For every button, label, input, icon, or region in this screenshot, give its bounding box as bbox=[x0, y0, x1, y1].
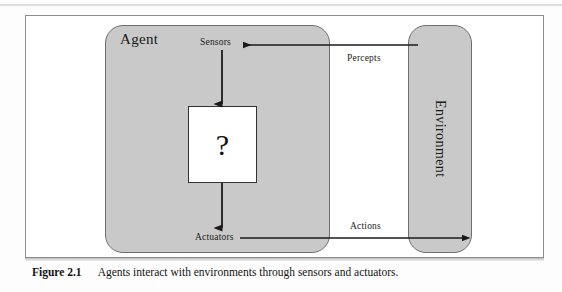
question-mark-label: ? bbox=[188, 106, 257, 183]
figure-caption-text: Agents interact with environments throug… bbox=[98, 266, 399, 278]
figure-caption: Figure 2.1Agents interact with environme… bbox=[32, 266, 542, 278]
caption-separator-rule bbox=[25, 258, 544, 261]
percepts-edge-label: Percepts bbox=[347, 53, 381, 63]
environment-label: Environment bbox=[408, 25, 472, 253]
actions-edge-label: Actions bbox=[350, 221, 381, 231]
scanned-page-background: Agent Environment ? Sensors Actuators Pe… bbox=[0, 0, 562, 292]
environment-label-text: Environment bbox=[432, 100, 448, 178]
page-top-rule bbox=[0, 4, 562, 6]
agent-label: Agent bbox=[120, 31, 158, 48]
sensors-label: Sensors bbox=[200, 37, 231, 47]
actuators-label: Actuators bbox=[195, 232, 234, 242]
figure-number: Figure 2.1 bbox=[32, 266, 82, 278]
